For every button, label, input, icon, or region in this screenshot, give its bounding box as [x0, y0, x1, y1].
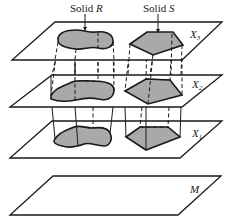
solid-r-section-x3 [58, 30, 113, 49]
svg-text:Solid S: Solid S [143, 2, 175, 14]
cavalieri-diagram: M X1 X2 [0, 0, 232, 220]
plane-x1: X1 [10, 121, 222, 158]
plane-m-label: M [189, 183, 200, 195]
svg-text:Solid R: Solid R [70, 2, 103, 14]
plane-x2: X2 [10, 75, 222, 107]
plane-m: M [10, 176, 221, 215]
plane-x3: X3 [12, 22, 222, 60]
